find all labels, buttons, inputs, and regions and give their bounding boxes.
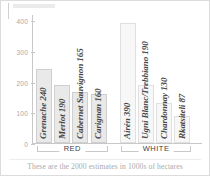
bar-slot: Ugni Blanc/Trebbiano 190 [138, 15, 154, 143]
decorative-divider [8, 3, 9, 19]
bar-slot: Rkatsiteli 87 [174, 15, 190, 143]
bar-series: Grenache 240Merlot 190Cabernet Sauvignon… [33, 15, 202, 143]
group-bracket-tick-right [107, 146, 108, 152]
bar-slot: Chardonnay 130 [156, 15, 172, 143]
bar-slot: Airén 390 [120, 15, 136, 143]
bar-slot: Carignan 160 [91, 15, 107, 143]
bar-slot: Merlot 190 [54, 15, 70, 143]
group-label: WHITE [139, 144, 174, 153]
y-axis-tick-label: 400 [17, 18, 28, 25]
y-axis-tick-label: 0 [24, 141, 28, 148]
bar-slot: Grenache 240 [36, 15, 52, 143]
group-bracket-white: WHITE [121, 146, 192, 158]
group-bracket-tick-left [37, 146, 38, 152]
y-axis-tick-label: 200 [17, 79, 28, 86]
group-bracket-red: RED [37, 146, 108, 158]
y-axis-tick-label: 100 [17, 110, 28, 117]
group-bracket-tick-right [190, 146, 191, 152]
plot-area: 0100200300400 Grenache 240Merlot 190Cabe… [32, 15, 202, 144]
group-brackets: REDWHITE [33, 146, 202, 158]
group-label: RED [60, 144, 85, 153]
group-bracket-tick-left [121, 146, 122, 152]
bar-slot: Cabernet Sauvignon 165 [72, 15, 88, 143]
cropped-title-remnant [13, 4, 55, 8]
bar-chart-card: 0100200300400 Grenache 240Merlot 190Cabe… [0, 0, 210, 176]
y-axis-tick-mark [31, 144, 35, 145]
chart-footnote: These are the 2000 estimates in 1000s of… [1, 162, 209, 171]
y-axis-tick-label: 300 [17, 48, 28, 55]
x-axis-line [32, 143, 202, 144]
footnote-divider [9, 159, 201, 160]
